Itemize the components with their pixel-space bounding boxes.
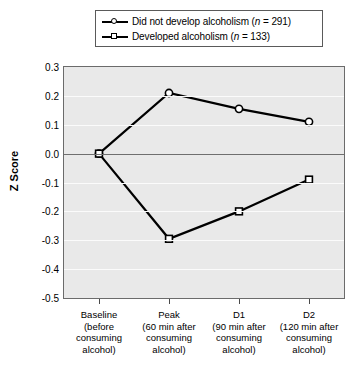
category-sublabel-line: (120 min after — [266, 321, 352, 333]
open-square-marker-icon — [102, 31, 128, 42]
y-axis-tick-label: -0.3 — [29, 235, 59, 246]
x-axis-tick-mark — [239, 299, 240, 304]
y-axis-tick-label: -0.4 — [29, 264, 59, 275]
plot-inner — [64, 67, 344, 298]
category-sublabel-line: consuming — [266, 332, 352, 344]
y-axis-tick-label: 0.1 — [29, 119, 59, 130]
x-axis-tick-mark — [309, 299, 310, 304]
y-axis-title: Z Score — [8, 136, 20, 206]
legend-label-did-not-develop: Did not develop alcoholism (n = 291) — [132, 16, 291, 27]
y-axis-tick-label: -0.5 — [29, 293, 59, 304]
gridline — [64, 183, 344, 184]
open-circle-marker-icon — [102, 16, 128, 27]
category-name: D2 — [266, 309, 352, 321]
y-axis-tick-label: -0.2 — [29, 206, 59, 217]
gridline — [64, 211, 344, 212]
legend-item-developed: Developed alcoholism (n = 133) — [102, 29, 322, 44]
x-axis-tick-mark — [169, 299, 170, 304]
x-axis-category-label: D2(120 min afterconsumingalcohol) — [266, 309, 352, 355]
legend-item-did-not-develop: Did not develop alcoholism (n = 291) — [102, 14, 322, 29]
gridline — [64, 269, 344, 270]
y-axis-tick-label: 0.0 — [29, 148, 59, 159]
legend-n-value-0: = 291) — [260, 16, 291, 27]
gridline — [64, 125, 344, 126]
category-sublabel-line: alcohol) — [266, 344, 352, 356]
x-axis-tick-mark — [99, 299, 100, 304]
chart-figure: Did not develop alcoholism (n = 291) Dev… — [0, 0, 361, 378]
gridline — [64, 96, 344, 97]
chart-legend: Did not develop alcoholism (n = 291) Dev… — [95, 10, 323, 47]
plot-area — [63, 66, 345, 299]
legend-text-0: Did not develop alcoholism — [132, 16, 249, 27]
legend-text-1: Developed alcoholism — [132, 31, 228, 42]
y-axis-tick-labels: 0.30.20.10.0-0.1-0.2-0.3-0.4-0.5 — [25, 66, 59, 299]
legend-n-value-1: = 133) — [239, 31, 270, 42]
zero-reference-line — [64, 154, 344, 155]
legend-label-developed: Developed alcoholism (n = 133) — [132, 31, 270, 42]
y-axis-tick-label: 0.3 — [29, 62, 59, 73]
gridline — [64, 240, 344, 241]
y-axis-tick-label: 0.2 — [29, 90, 59, 101]
y-axis-tick-label: -0.1 — [29, 177, 59, 188]
